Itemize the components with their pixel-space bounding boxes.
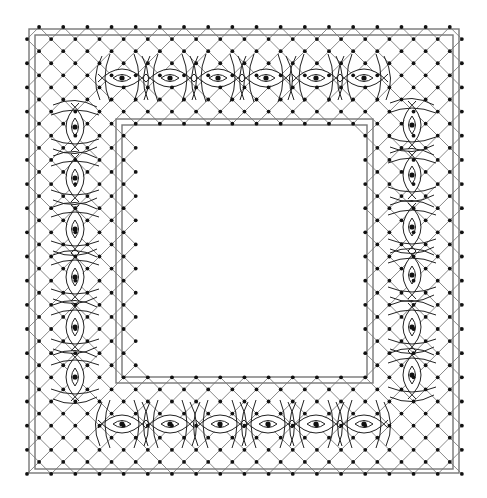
thread-line [438,39,450,51]
thread-line [414,63,426,75]
thread-line [317,401,329,413]
pin-hole [255,412,259,416]
thread-line [75,51,87,63]
pin-hole [122,230,126,234]
thread-line [51,39,63,51]
thread-line [39,365,51,377]
thread-line [401,414,413,426]
thread-line [124,39,136,51]
thread-line [414,414,426,426]
pin-hole [122,37,126,41]
pin-hole [158,49,162,53]
pin-hole [351,49,355,53]
thread-line [293,450,305,462]
pin-hole [363,255,367,259]
eye-pupil [313,75,318,80]
pin-hole [98,86,102,90]
thread-line [269,389,281,401]
pin-hole [49,255,53,259]
thread-line [39,87,51,99]
pin-hole [255,73,259,77]
thread-line [208,112,220,124]
pin-hole [49,472,53,476]
thread-line [39,305,51,317]
thread-line [365,51,377,63]
pin-hole [400,98,404,102]
thread-line [63,75,75,87]
pin-hole [412,400,416,404]
pin-hole [424,243,428,247]
pin-hole [388,424,392,428]
thread-line [124,232,136,244]
thread-line [39,75,51,87]
pin-hole [363,351,367,355]
pin-hole [400,363,404,367]
thread-line [426,220,438,232]
thread-line [305,99,317,111]
pin-hole [448,339,452,343]
thread-line [99,293,111,305]
thread-line [208,401,220,413]
pin-hole [122,206,126,210]
thread-line [450,293,462,305]
pin-hole [98,351,102,355]
thread-line [184,389,196,401]
thread-line [87,39,99,51]
thread-line [450,208,462,220]
pin-hole [388,351,392,355]
pin-hole [86,243,90,247]
pin-hole [86,291,90,295]
thread-line [377,353,389,365]
pin-hole [37,218,41,222]
pin-hole [388,448,392,452]
pin-hole [303,73,307,77]
pin-hole [86,267,90,271]
pin-hole [363,303,367,307]
thread-line [377,220,389,232]
pin-hole [279,73,283,77]
thread-line [450,353,462,365]
thread-line [63,426,75,438]
thread-line [377,99,389,111]
pin-hole [73,206,77,210]
thread-line [51,232,63,244]
pin-hole [400,412,404,416]
pin-hole [170,61,174,65]
thread-line [389,426,401,438]
thread-line [124,244,136,256]
pin-hole [122,424,126,428]
thread-line [39,148,51,160]
pin-hole [412,230,416,234]
thread-line [39,220,51,232]
pin-hole [460,351,464,355]
thread-line [377,281,389,293]
pin-hole [351,436,355,440]
thread-line [160,39,172,51]
pin-hole [375,98,379,102]
pin-hole [230,98,234,102]
thread-line [184,462,196,474]
thread-line [196,112,208,124]
pin-hole [315,448,319,452]
pin-hole [86,339,90,343]
pin-hole [134,436,138,440]
pin-hole [267,86,271,90]
thread-line [365,87,377,99]
thread-line [112,450,124,462]
thread-line [99,184,111,196]
thread-line [99,244,111,256]
thread-line [87,51,99,63]
pin-hole [122,158,126,162]
thread-line [450,51,462,63]
pin-hole [73,351,77,355]
thread-line [63,63,75,75]
pin-hole [61,267,65,271]
thread-line [160,99,172,111]
pin-hole [255,25,259,29]
pin-hole [255,460,259,464]
pin-hole [327,460,331,464]
thread-line [365,450,377,462]
thread-line [257,389,269,401]
thread-line [75,39,87,51]
pin-hole [61,49,65,53]
